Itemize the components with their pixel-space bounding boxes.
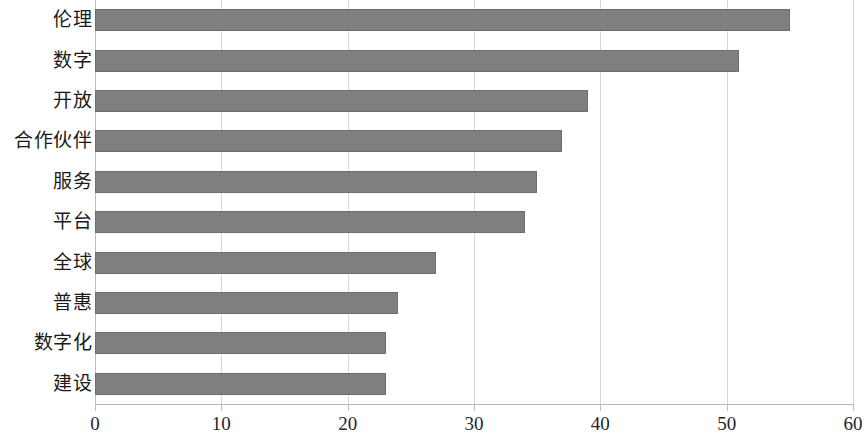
category-label: 服务 [53, 171, 92, 193]
bar-row [95, 50, 739, 72]
bar-平台[interactable] [95, 211, 525, 233]
category-label: 开放 [53, 90, 92, 112]
category-label: 建设 [53, 373, 92, 395]
bar-chart: 0102030405060 伦理数字开放合作伙伴服务平台全球普惠数字化建设 [0, 0, 868, 445]
x-tick-label: 60 [844, 412, 863, 436]
tick-mark-50 [727, 404, 728, 411]
category-label: 数字 [53, 50, 92, 72]
bar-建设[interactable] [95, 373, 386, 395]
x-tick-label: 20 [338, 412, 357, 436]
bar-row [95, 292, 398, 314]
gridline-60 [853, 0, 854, 404]
tick-mark-0 [95, 404, 96, 411]
x-tick-label: 0 [90, 412, 100, 436]
category-label: 普惠 [53, 292, 92, 314]
bar-row [95, 9, 790, 31]
bar-row [95, 211, 525, 233]
bar-伦理[interactable] [95, 9, 790, 31]
tick-mark-30 [474, 404, 475, 411]
bar-数字[interactable] [95, 50, 739, 72]
tick-mark-40 [600, 404, 601, 411]
tick-mark-60 [853, 404, 854, 411]
category-label: 平台 [53, 211, 92, 233]
bar-row [95, 252, 436, 274]
tick-mark-10 [221, 404, 222, 411]
x-tick-label: 30 [465, 412, 484, 436]
bar-row [95, 373, 386, 395]
bar-开放[interactable] [95, 90, 588, 112]
bar-row [95, 90, 588, 112]
bar-服务[interactable] [95, 171, 537, 193]
category-label: 数字化 [34, 332, 93, 354]
category-label: 伦理 [53, 9, 92, 31]
bar-普惠[interactable] [95, 292, 398, 314]
bar-合作伙伴[interactable] [95, 130, 562, 152]
x-tick-label: 40 [591, 412, 610, 436]
x-tick-label: 10 [212, 412, 231, 436]
bar-row [95, 332, 386, 354]
tick-mark-20 [348, 404, 349, 411]
bar-row [95, 171, 537, 193]
bar-全球[interactable] [95, 252, 436, 274]
bar-row [95, 130, 562, 152]
category-label: 全球 [53, 252, 92, 274]
category-label: 合作伙伴 [14, 130, 92, 152]
x-tick-label: 50 [717, 412, 736, 436]
bar-数字化[interactable] [95, 332, 386, 354]
